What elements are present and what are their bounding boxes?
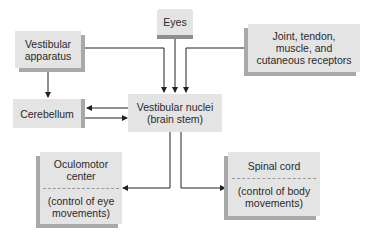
cerebellum-box: Cerebellum (13, 99, 81, 128)
oculomotor-center-box: Oculomotor center (control of eye moveme… (40, 152, 122, 224)
vestibular-nuclei-label-2: (brain stem) (147, 113, 203, 125)
vestibular-nuclei-box: Vestibular nuclei (brain stem) (128, 94, 222, 132)
oculomotor-desc-1: (control of eye (48, 195, 115, 207)
spinal-cord-title: Spinal cord (248, 160, 301, 172)
vestibular-apparatus-label-1: Vestibular (25, 38, 71, 50)
spinal-cord-box: Spinal cord (control of body movements) (228, 152, 320, 216)
spinal-cord-desc-2: movements) (245, 197, 303, 209)
eyes-box: Eyes (157, 9, 193, 35)
receptors-label-2: muscle, and (276, 42, 333, 54)
oculomotor-title-2: center (66, 170, 95, 182)
eyes-label: Eyes (163, 16, 186, 28)
oculomotor-divider (43, 188, 118, 189)
spinal-cord-divider (232, 178, 317, 179)
receptors-box: Joint, tendon, muscle, and cutaneous rec… (248, 24, 360, 72)
receptors-label-3: cutaneous receptors (256, 54, 351, 66)
receptors-label-1: Joint, tendon, (272, 30, 335, 42)
vestibular-nuclei-label-1: Vestibular nuclei (137, 101, 213, 113)
spinal-cord-desc-1: (control of body (238, 185, 310, 197)
oculomotor-desc-2: movements) (52, 207, 110, 219)
oculomotor-title-1: Oculomotor (54, 158, 108, 170)
vestibular-apparatus-label-2: apparatus (25, 50, 72, 62)
cerebellum-label: Cerebellum (20, 108, 74, 120)
vestibular-apparatus-box: Vestibular apparatus (15, 31, 81, 68)
